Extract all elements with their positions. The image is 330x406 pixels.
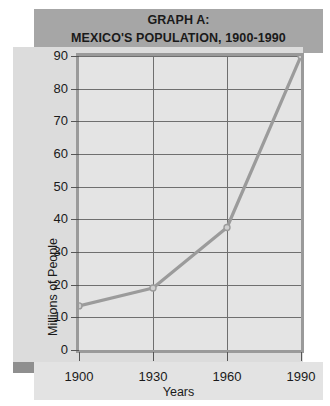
yaxis-tick-label: 0 — [38, 342, 68, 357]
yaxis-tick-mark — [71, 285, 79, 286]
yaxis-tick-label: 50 — [38, 179, 68, 194]
yaxis-tick-label: 40 — [38, 211, 68, 226]
yaxis-tick-mark — [71, 252, 79, 253]
xaxis-tick-label: 1960 — [202, 369, 252, 384]
chart-title: GRAPH A: MEXICO'S POPULATION, 1900-1990 — [34, 11, 323, 47]
xaxis-tick-mark — [79, 352, 80, 361]
yaxis-tick-mark — [71, 56, 79, 57]
data-point-marker — [298, 56, 301, 59]
series-line-mexico-population — [79, 56, 301, 350]
xaxis-tick-mark — [301, 352, 302, 361]
yaxis-tick-mark — [71, 219, 79, 220]
yaxis-tick-mark — [71, 317, 79, 318]
data-point-marker — [150, 285, 156, 291]
yaxis-tick-label: 20 — [38, 277, 68, 292]
data-point-marker — [79, 303, 82, 309]
yaxis-tick-label: 60 — [38, 146, 68, 161]
xaxis-title: Years — [34, 385, 323, 399]
yaxis-tick-mark — [71, 121, 79, 122]
xaxis-tick-label: 1930 — [128, 369, 178, 384]
yaxis-tick-mark — [71, 154, 79, 155]
yaxis-tick-mark — [71, 187, 79, 188]
xaxis-tick-label: 1990 — [276, 369, 326, 384]
chart-title-line1: GRAPH A: — [34, 11, 323, 29]
xaxis-tick-mark — [153, 352, 154, 361]
yaxis-tick-label: 90 — [38, 48, 68, 63]
yaxis-tick-label: 80 — [38, 81, 68, 96]
yaxis-tick-label: 10 — [38, 309, 68, 324]
xaxis-tick-label: 1900 — [54, 369, 104, 384]
data-point-marker — [224, 225, 230, 231]
yaxis-tick-mark — [71, 89, 79, 90]
plot-area — [79, 56, 301, 350]
chart-card: GRAPH A: MEXICO'S POPULATION, 1900-1990 … — [0, 0, 330, 406]
xaxis-tick-mark — [227, 352, 228, 361]
yaxis-tick-mark — [71, 350, 79, 351]
chart-title-line2: MEXICO'S POPULATION, 1900-1990 — [34, 29, 323, 47]
yaxis-tick-label: 70 — [38, 113, 68, 128]
yaxis-tick-label: 30 — [38, 244, 68, 259]
